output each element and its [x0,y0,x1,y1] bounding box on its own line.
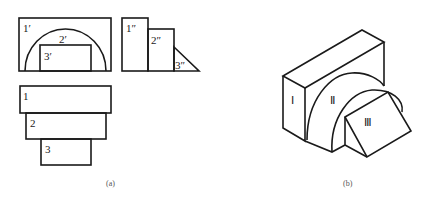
label-1-double-prime: 1″ [126,22,136,34]
three-view-diagram: 1′ 2′ 3′ 1″ 2″ 3″ 1 2 3 (a) Ⅰ Ⅱ Ⅲ [0,0,426,200]
label-1: 1 [23,90,29,102]
label-roman-2: Ⅱ [330,94,335,106]
label-1-prime: 1′ [23,22,31,34]
label-roman-1: Ⅰ [291,94,294,106]
top-view: 1 2 3 [20,86,111,165]
side-view: 1″ 2″ 3″ [122,18,199,71]
caption-b: (b) [343,179,353,188]
label-3: 3 [45,143,51,155]
label-roman-3: Ⅲ [364,116,372,128]
top-view-rect-1 [20,86,111,113]
label-2: 2 [30,117,36,129]
label-2-prime: 2′ [59,33,67,45]
front-view: 1′ 2′ 3′ [19,18,111,71]
isometric-view: Ⅰ Ⅱ Ⅲ [283,30,411,157]
label-3-prime: 3′ [44,50,52,62]
label-2-double-prime: 2″ [151,34,161,46]
cylinder-base [305,141,345,152]
label-3-double-prime: 3″ [175,59,185,71]
top-view-rect-2 [26,113,106,139]
caption-a: (a) [106,179,115,188]
